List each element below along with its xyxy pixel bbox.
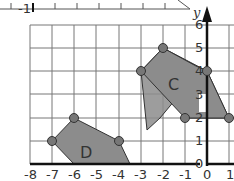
shape-d-label: D: [80, 143, 92, 162]
x-tick-label: -4: [112, 167, 125, 181]
x-tick-label: -8: [24, 167, 37, 181]
y-axis-arrow-icon: [202, 6, 212, 22]
top-ruler-label: -1: [18, 1, 31, 16]
y-tick-label: 6: [195, 17, 203, 32]
x-tick-label: -3: [134, 167, 147, 181]
shape-c-label: C: [168, 75, 179, 94]
y-tick-label: 5: [195, 40, 203, 55]
top-ruler: -1: [0, 0, 190, 16]
x-tick-label: 0: [203, 167, 211, 181]
x-tick-label: -2: [157, 167, 170, 181]
x-tick-label: -6: [68, 167, 81, 181]
y-tick-label: 2: [195, 110, 203, 125]
x-tick-label: -7: [46, 167, 59, 181]
y-tick-label: 4: [195, 63, 203, 78]
y-tick-label: 0: [195, 156, 203, 171]
y-tick-label: 1: [195, 133, 203, 148]
x-tick-label: -5: [90, 167, 103, 181]
y-tick-label: 3: [195, 87, 203, 102]
coordinate-grid-diagram: -1 C D: [0, 0, 234, 181]
x-tick-label: -1: [179, 167, 192, 181]
x-tick-label: 1: [226, 167, 234, 181]
